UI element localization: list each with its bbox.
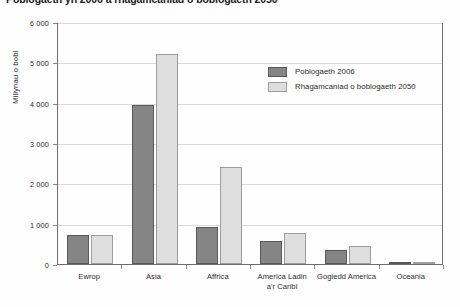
bar: [325, 250, 347, 264]
y-axis: 6 0005 0004 0003 0002 0001 0000: [0, 0, 57, 307]
x-tick-label-line: Oceania: [373, 272, 449, 282]
legend-label: Poblogaeth 2006: [295, 67, 355, 76]
y-tick-label: 5 000: [30, 59, 49, 68]
y-tick-label: 1 000: [30, 220, 49, 229]
bar: [220, 167, 242, 264]
legend-swatch-icon: [268, 67, 287, 77]
chart-title: Poblogaeth yn 2006 a rhagamcaniad o bobl…: [6, 0, 454, 5]
y-tick-mark: [53, 265, 57, 266]
bar: [67, 235, 89, 264]
x-tick-mark: [186, 265, 187, 269]
plot-area: [57, 23, 443, 265]
bar: [389, 262, 411, 264]
legend-label: Rhagamcaniad o boblogaeth 2050: [295, 82, 416, 91]
y-axis-title: Miliynau o bobl: [11, 50, 20, 104]
x-tick-label: Oceania: [373, 272, 449, 282]
y-tick-label: 6 000: [30, 19, 49, 28]
y-tick-label: 2 000: [30, 180, 49, 189]
gridline: [58, 23, 442, 24]
gridline: [58, 104, 442, 105]
chart-figure: Poblogaeth yn 2006 a rhagamcaniad o bobl…: [0, 0, 460, 307]
bar: [196, 227, 218, 264]
bar: [132, 105, 154, 264]
y-tick-label: 3 000: [30, 140, 49, 149]
gridline: [58, 144, 442, 145]
bar: [156, 54, 178, 264]
bar: [413, 262, 435, 264]
bar: [260, 241, 282, 264]
gridline: [58, 184, 442, 185]
bar: [284, 233, 306, 264]
legend-item[interactable]: Rhagamcaniad o boblogaeth 2050: [268, 79, 416, 94]
x-tick-label-line: a'r Caribî: [244, 282, 320, 292]
gridline: [58, 225, 442, 226]
y-tick-label: 4 000: [30, 99, 49, 108]
chart-legend: Poblogaeth 2006Rhagamcaniad o boblogaeth…: [268, 64, 416, 94]
bar: [91, 235, 113, 264]
bar: [349, 246, 371, 264]
x-tick-mark: [314, 265, 315, 269]
y-tick-label: 0: [45, 261, 49, 270]
x-tick-mark: [121, 265, 122, 269]
x-tick-mark: [443, 265, 444, 269]
x-tick-mark: [379, 265, 380, 269]
legend-item[interactable]: Poblogaeth 2006: [268, 64, 416, 79]
x-tick-mark: [250, 265, 251, 269]
legend-swatch-icon: [268, 82, 287, 92]
